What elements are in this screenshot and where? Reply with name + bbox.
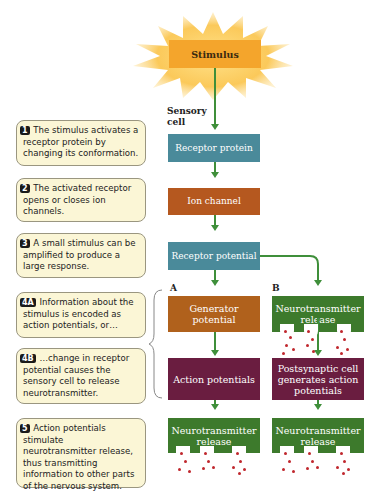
arrow-to-path-b bbox=[258, 250, 324, 290]
arrowhead-icon bbox=[211, 124, 219, 130]
action-potentials-box: Action potentials bbox=[168, 358, 260, 400]
ion-channel-box: Ion channel bbox=[168, 188, 260, 215]
arrowhead-icon bbox=[211, 280, 219, 286]
arrow-stimulus-to-receptor bbox=[214, 68, 216, 126]
arrowhead-icon bbox=[211, 350, 219, 356]
note-5: 5 Action potentials stimulate neurotrans… bbox=[16, 418, 146, 488]
generator-potential-box: Generator potential bbox=[168, 296, 260, 332]
note-4b: 4B …change in receptor potential causes … bbox=[16, 348, 146, 404]
arrowhead-icon bbox=[314, 404, 322, 410]
note-1: 1 The stimulus activates a receptor prot… bbox=[16, 120, 146, 166]
arrowhead-icon bbox=[211, 225, 219, 231]
arrow bbox=[214, 332, 216, 352]
postsynaptic-box: Postsynaptic cell generates action poten… bbox=[272, 358, 364, 400]
brace-icon bbox=[148, 288, 166, 400]
stimulus-box: Stimulus bbox=[169, 40, 261, 68]
arrowhead-icon bbox=[211, 172, 219, 178]
path-b-label: B bbox=[272, 283, 280, 293]
receptor-protein-box: Receptor protein bbox=[168, 134, 260, 162]
note-4a: 4A Information about the stimulus is enc… bbox=[16, 292, 146, 338]
sensory-cell-label: Sensory cell bbox=[167, 106, 207, 128]
arrowhead-icon bbox=[211, 404, 219, 410]
receptor-potential-box: Receptor potential bbox=[168, 242, 260, 270]
arrowhead-icon bbox=[314, 350, 322, 356]
note-3: 3 A small stimulus can be amplified to p… bbox=[16, 233, 146, 278]
path-a-label: A bbox=[170, 283, 177, 293]
note-2: 2 The activated receptor opens or closes… bbox=[16, 178, 146, 222]
